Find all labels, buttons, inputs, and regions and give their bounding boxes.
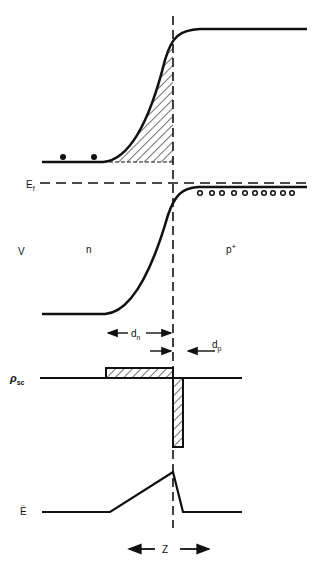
potential-label: V bbox=[18, 246, 25, 257]
svg-text:dn: dn bbox=[131, 328, 141, 341]
pn-junction-diagram: Ef V n p+ dn dp ρsc bbox=[0, 0, 323, 568]
dp-dimension: dp bbox=[150, 339, 222, 353]
svg-text:Ef: Ef bbox=[26, 179, 35, 192]
svg-text:Z: Z bbox=[162, 544, 168, 555]
conduction-band bbox=[42, 29, 307, 162]
electron bbox=[91, 154, 97, 160]
fermi-level: Ef bbox=[26, 179, 307, 192]
valence-band bbox=[42, 187, 307, 314]
svg-text:E: E bbox=[20, 506, 27, 517]
p-region-label: p+ bbox=[226, 242, 237, 255]
n-region-label: n bbox=[86, 244, 92, 255]
svg-text:ρsc: ρsc bbox=[9, 372, 25, 386]
electron bbox=[60, 154, 66, 160]
width-dimension: Z bbox=[129, 544, 209, 555]
holes bbox=[198, 191, 295, 196]
charge-density-plot: ρsc bbox=[9, 368, 242, 447]
dn-dimension: dn bbox=[108, 328, 171, 341]
electric-field-plot: → E bbox=[20, 472, 242, 517]
